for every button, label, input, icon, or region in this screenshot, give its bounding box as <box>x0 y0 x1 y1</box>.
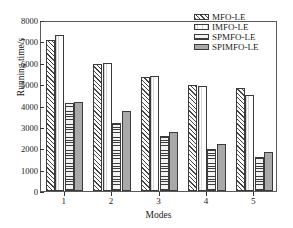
y-tick-mark <box>40 171 44 172</box>
bar <box>264 152 273 191</box>
bar <box>112 123 121 191</box>
bar <box>236 88 245 191</box>
y-tick-label: 8000 <box>12 17 38 26</box>
legend-item: MFO-LE <box>194 12 259 22</box>
legend-label: MFO-LE <box>212 13 246 22</box>
bar <box>169 132 178 191</box>
y-tick-label: 1000 <box>12 167 38 176</box>
y-tick-mark <box>40 85 44 86</box>
y-tick-label: 6000 <box>12 60 38 69</box>
bar <box>55 35 64 191</box>
y-tick-mark <box>40 42 44 43</box>
legend-item: SPIMFO-LE <box>194 42 259 52</box>
bar <box>122 111 131 191</box>
y-tick-mark <box>40 128 44 129</box>
bar <box>207 149 216 191</box>
bar <box>160 136 169 191</box>
chart-legend: MFO-LEIMFO-LESPMFO-LESPIMFO-LE <box>192 11 261 53</box>
bar <box>245 95 254 191</box>
x-tick-label: 4 <box>194 196 218 206</box>
x-tick-label: 2 <box>99 196 123 206</box>
x-tick-mark <box>253 192 254 196</box>
legend-swatch-icon <box>194 34 209 41</box>
bar-group <box>93 22 131 191</box>
y-tick-label: 4000 <box>12 103 38 112</box>
y-tick-mark <box>40 149 44 150</box>
bar <box>46 40 55 191</box>
y-tick-mark <box>40 21 44 22</box>
y-tick-mark <box>40 64 44 65</box>
x-tick-label: 5 <box>241 196 265 206</box>
x-tick-mark <box>64 192 65 196</box>
y-tick-label: 0 <box>12 188 38 197</box>
x-tick-mark <box>111 192 112 196</box>
y-tick-label: 5000 <box>12 81 38 90</box>
legend-label: IMFO-LE <box>212 23 249 32</box>
y-tick-label: 3000 <box>12 124 38 133</box>
bar <box>93 64 102 191</box>
bar <box>74 102 83 191</box>
legend-label: SPIMFO-LE <box>212 43 259 52</box>
bar <box>65 103 74 191</box>
bar-group <box>141 22 179 191</box>
y-tick-label: 2000 <box>12 145 38 154</box>
bar <box>103 63 112 191</box>
x-tick-mark <box>206 192 207 196</box>
bar <box>217 144 226 191</box>
y-tick-mark <box>40 192 44 193</box>
bar <box>141 77 150 191</box>
legend-item: IMFO-LE <box>194 22 259 32</box>
legend-item: SPMFO-LE <box>194 32 259 42</box>
y-tick-label: 7000 <box>12 38 38 47</box>
x-tick-mark <box>159 192 160 196</box>
y-axis-tick-labels: 010002000300040005000600070008000 <box>12 0 38 228</box>
legend-label: SPMFO-LE <box>212 33 256 42</box>
y-tick-mark <box>40 107 44 108</box>
x-tick-label: 1 <box>52 196 76 206</box>
legend-swatch-icon <box>194 24 209 31</box>
bar <box>255 157 264 191</box>
bar <box>198 86 207 191</box>
legend-swatch-icon <box>194 44 209 51</box>
bar-group <box>46 22 84 191</box>
bar <box>150 76 159 191</box>
x-tick-label: 3 <box>147 196 171 206</box>
x-axis-title: Modes <box>40 210 277 220</box>
bar <box>188 85 197 191</box>
bar-chart-figure: Running time/s 0100020003000400050006000… <box>0 0 293 228</box>
legend-swatch-icon <box>194 14 209 21</box>
